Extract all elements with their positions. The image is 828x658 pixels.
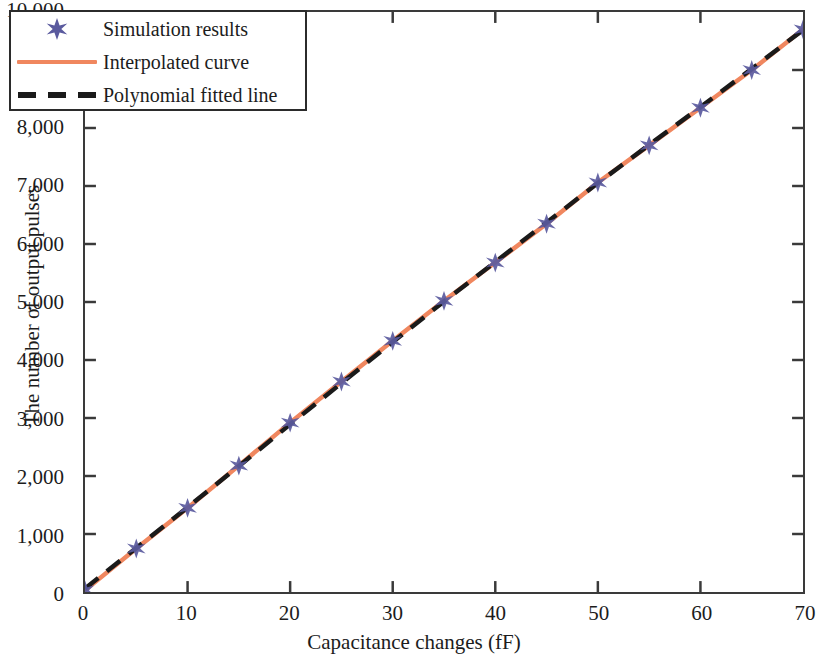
x-tick-label: 50	[588, 603, 609, 624]
legend-item-interpolated-curve: Interpolated curve	[11, 45, 305, 78]
x-tick-label: 10	[176, 603, 197, 624]
legend-label: Simulation results	[103, 19, 248, 39]
x-axis-title: Capacitance changes (fF)	[0, 632, 828, 653]
legend-label: Polynomial fitted line	[103, 85, 277, 105]
legend-label: Interpolated curve	[103, 52, 249, 72]
x-tick-label: 20	[279, 603, 300, 624]
x-tick-label: 30	[382, 603, 403, 624]
x-tick-label: 0	[78, 603, 89, 624]
solid-line-icon	[11, 45, 103, 78]
y-tick-label: 1,000	[17, 525, 64, 546]
x-tick-label: 60	[691, 603, 712, 624]
y-axis-title: The number of output pulses	[22, 126, 43, 486]
x-axis-tick-labels: 010203040506070	[0, 603, 828, 631]
dashed-line-icon	[11, 79, 103, 112]
star-marker-icon	[11, 12, 103, 45]
x-tick-label: 70	[795, 603, 816, 624]
y-tick-label: 0	[54, 584, 65, 605]
chart-figure: 01,0002,0003,0004,0005,0006,0007,0008,00…	[0, 0, 828, 658]
legend-item-simulation-results: Simulation results	[11, 12, 305, 45]
chart-legend: Simulation results Interpolated curve Po…	[9, 10, 307, 111]
x-tick-label: 40	[485, 603, 506, 624]
legend-item-polynomial-fitted-line: Polynomial fitted line	[11, 79, 305, 112]
